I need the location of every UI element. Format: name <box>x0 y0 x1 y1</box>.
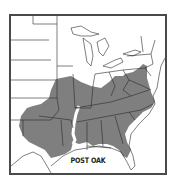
map-frame: POST OAK <box>9 14 167 175</box>
range-map <box>11 16 165 173</box>
great-lakes <box>71 26 141 68</box>
species-label: POST OAK <box>23 156 154 165</box>
